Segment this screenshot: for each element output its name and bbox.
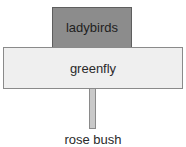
- level-rose-bush: [89, 88, 96, 129]
- level-label-rose-bush: rose bush: [0, 132, 186, 147]
- level-greenfly: greenfly: [3, 47, 183, 89]
- level-label-ladybirds: ladybirds: [66, 20, 118, 35]
- level-ladybirds: ladybirds: [52, 7, 132, 48]
- level-label-greenfly: greenfly: [70, 61, 116, 76]
